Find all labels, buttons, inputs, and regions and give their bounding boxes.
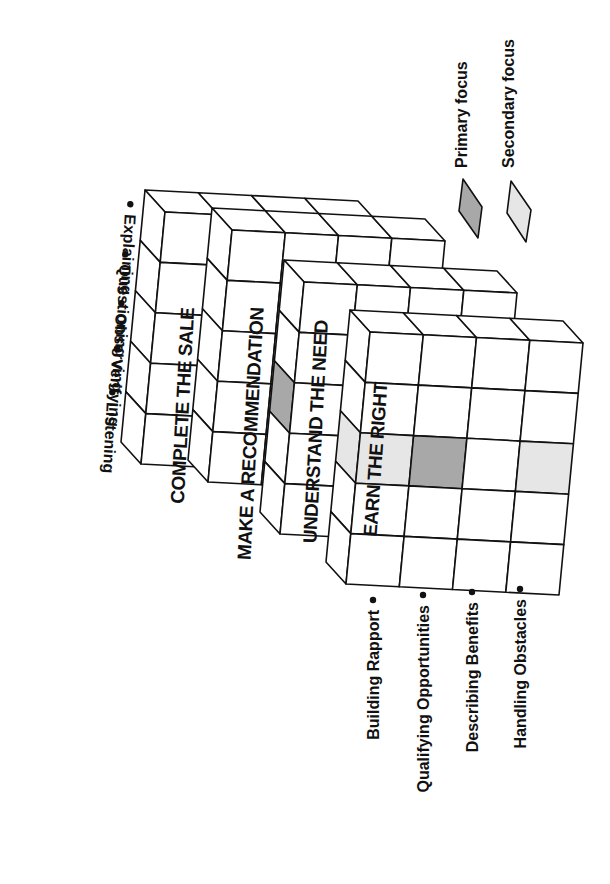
front-cell — [227, 230, 285, 283]
bullet-icon — [469, 589, 475, 595]
bottom-axis: Building Rapport Qualifying Opportunitie… — [365, 586, 529, 793]
svg-text:Handling Obstacles: Handling Obstacles — [512, 599, 529, 748]
front-cell — [457, 489, 515, 542]
svg-text:Explaining: Explaining — [118, 214, 139, 296]
front-cell — [453, 539, 511, 592]
sales-cube-diagram: COMPLETE THE SALE MAKE A RECOMMENDATION … — [0, 0, 610, 884]
front-cell — [520, 391, 578, 444]
front-cell — [506, 542, 564, 595]
svg-text:Describing Benefits: Describing Benefits — [464, 602, 481, 752]
front-cell — [409, 436, 467, 489]
bottom-axis-item-qualifying-opportunities: Qualifying Opportunities — [415, 592, 432, 793]
bottom-axis-item-handling-obstacles: Handling Obstacles — [512, 586, 529, 749]
bullet-icon — [420, 592, 426, 598]
front-cell — [346, 534, 404, 587]
bullet-icon — [370, 597, 376, 603]
bullet-icon — [127, 201, 134, 208]
top-axis-item-explaining: Explaining — [118, 201, 140, 296]
front-cell — [511, 491, 569, 544]
primary-focus-swatch-icon — [459, 179, 482, 238]
secondary-focus-swatch-icon — [507, 181, 531, 242]
bottom-axis-item-describing-benefits: Describing Benefits — [464, 589, 481, 752]
svg-text:Secondary focus: Secondary focus — [500, 39, 517, 168]
front-cell — [515, 441, 573, 494]
legend: Primary focus Secondary focus — [453, 39, 531, 242]
legend-item-secondary-focus: Secondary focus — [500, 39, 531, 242]
legend-item-primary-focus: Primary focus — [453, 61, 482, 238]
bullet-icon — [517, 586, 523, 592]
front-cell — [399, 536, 457, 589]
svg-text:Primary focus: Primary focus — [453, 61, 470, 168]
bottom-axis-item-building-rapport: Building Rapport — [365, 597, 382, 740]
svg-text:Qualifying Opportunities: Qualifying Opportunities — [415, 605, 432, 793]
front-cell — [418, 335, 476, 388]
front-cell — [467, 388, 525, 441]
svg-text:Building Rapport: Building Rapport — [365, 609, 382, 739]
front-cell — [462, 438, 520, 491]
front-cell — [525, 340, 583, 393]
front-cell — [365, 332, 423, 385]
front-cell — [472, 338, 530, 391]
front-cell — [414, 385, 472, 438]
front-cell — [404, 486, 462, 539]
